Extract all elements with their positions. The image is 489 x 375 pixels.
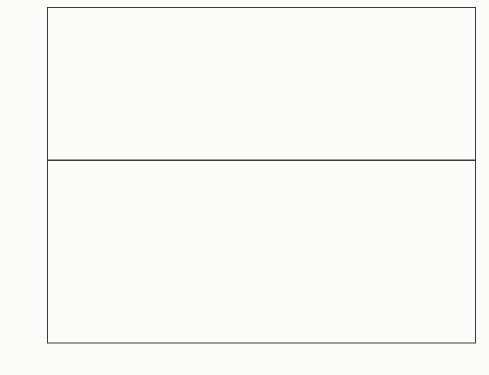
porosity-permeability-figure — [0, 0, 489, 375]
upper-panel-frame — [48, 8, 476, 161]
figure-container — [0, 0, 489, 375]
lower-panel-frame — [48, 161, 476, 344]
